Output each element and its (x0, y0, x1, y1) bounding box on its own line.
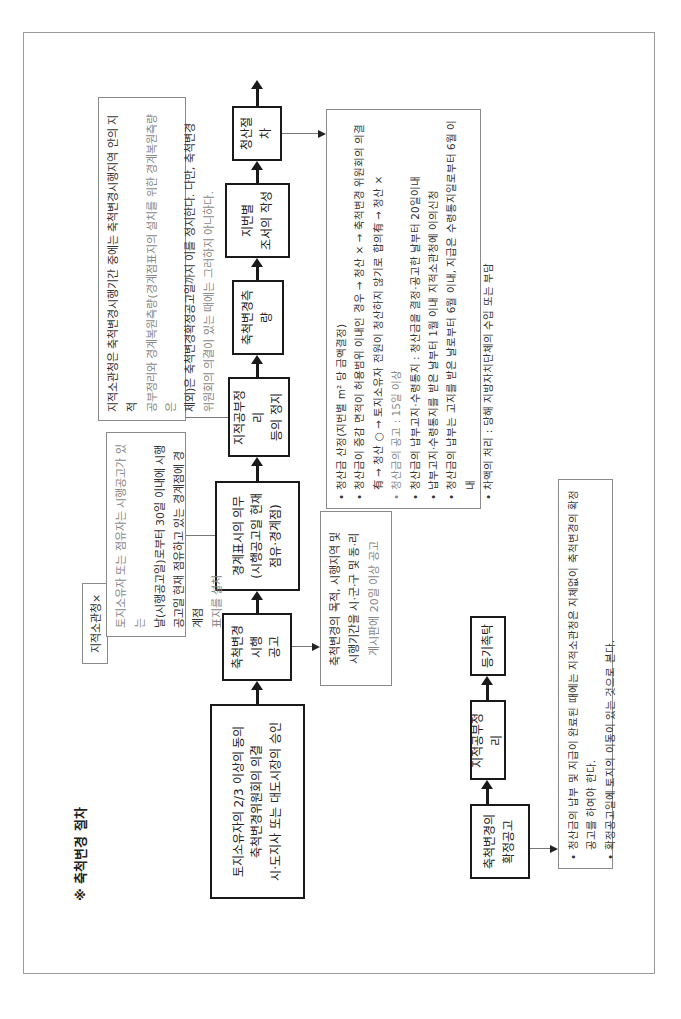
step-boundary-marking: 경계표시의 의무 (시행공고일 현재 점유·경계점) (215, 481, 300, 591)
step-line: 확정공고 (500, 820, 519, 864)
arrow-right (256, 88, 259, 106)
arrow-down (312, 643, 320, 651)
settlement-item: 청산금 산정(지번별 m² 당 금액결정) (332, 118, 350, 500)
settlement-item: 청산금의 공고 : 15일 이상 (387, 118, 405, 500)
step-line: 점유·경계점) (267, 504, 286, 568)
step-line: 경계표시의 의무 (230, 496, 249, 577)
step-line: (시행공고일 현재 (248, 493, 267, 579)
step-line: 지적공부정리 (469, 708, 506, 772)
step-survey: 축척변경측량 (232, 280, 284, 355)
rotated-page: ※ 축척변경 절차 토지소유자의 2/3 이상의 동의 축척변경위원회의 의결 … (0, 0, 681, 1019)
step-line: 청산절차 (238, 114, 275, 153)
arrow-right (486, 684, 489, 700)
note-line: 제외)은 축척변경확정공고일까지 이를 정지한다. 다만, 축척변경 (181, 106, 200, 412)
note-line: 공고일 현재 점유하고 있는 경계점에 경계점 (170, 441, 209, 628)
step-line: 등의 정지 (268, 393, 287, 441)
arrow-right (486, 788, 489, 804)
connector-line (530, 848, 552, 849)
arrow-right (256, 465, 259, 481)
settlement-item: 청산금이 증감 면적이 허용범위 이내인 경우 → 청산 × → 축척변경 위원… (350, 118, 387, 500)
step-final-notice: 축척변경의 확정공고 (470, 804, 530, 879)
step-line: 지번별 (239, 204, 258, 237)
public-notice-note: 축척변경의 목적, 시행지역 및 시행기간을 시·군·구 및 동·리 게시판에 … (320, 511, 392, 686)
connector-line (282, 133, 322, 134)
boundary-tag: 지적소관청× (82, 583, 108, 664)
arrow-right (256, 169, 259, 183)
step-line: 축척변경위원회의 의결 (248, 745, 267, 859)
step-lot-survey-record: 지번별 조서의 작성 (225, 183, 290, 258)
note-line: 위원회의 의결이 있는 때에는 그러하지 아니하다. (200, 106, 219, 412)
step-settlement: 청산절차 (232, 106, 282, 161)
note-line: 날(시행공고일)로부터 30일 이내에 시행 (151, 441, 170, 628)
note-line: 시행기간을 시·군·구 및 동·리 (345, 520, 364, 677)
boundary-note: 토지소유자 또는 점유자는 시행공고가 있는 날(시행공고일)로부터 30일 이… (106, 432, 186, 637)
arrow-right (256, 363, 259, 377)
final-item: 청산금의 납부 및 지급이 완료된 때에는 지적소관청은 지체없이 축척변경의 … (564, 488, 601, 860)
step-line: 축척변경의 (481, 814, 500, 869)
step-line: 공고 (266, 636, 285, 658)
arrow-right (256, 266, 259, 280)
step-line: 지적공부정리 (231, 385, 268, 449)
suspension-note: 지적소관청은 축척변경시행기간 중에는 축척변경시행지역 안의 지적 공부정리와… (98, 97, 186, 421)
settlement-item: 차액의 처리 : 당해 지방자치단체의 수입 또는 부담 (479, 118, 497, 500)
settlement-note: 청산금 산정(지번별 m² 당 금액결정) 청산금이 증감 면적이 허용범위 이… (326, 109, 481, 509)
settlement-item: 청산금의 납부는 고지를 받은 날로부터 6월 이내, 지급은 수령통지일로부터… (442, 118, 479, 500)
arrow-right (256, 599, 259, 613)
step-registration-request: 등기촉탁 (470, 616, 506, 676)
note-line: 표지를 설치 (208, 441, 227, 628)
note-line: 축척변경의 목적, 시행지역 및 (326, 520, 345, 677)
note-line: 토지소유자 또는 점유자는 시행공고가 있는 (112, 441, 151, 628)
note-line: 지적소관청은 축척변경시행기간 중에는 축척변경시행지역 안의 지적 (104, 106, 143, 412)
final-note: 청산금의 납부 및 지급이 완료된 때에는 지적소관청은 지체없이 축척변경의 … (558, 479, 613, 869)
step-line: 시·도지사 또는 대도시장의 승인 (267, 722, 286, 880)
arrow-right (256, 689, 259, 704)
final-item: 확정공고일에 토지의 이동이 있는 것으로 본다. (601, 488, 619, 860)
page-title: ※ 축척변경 절차 (70, 807, 89, 901)
step-public-notice: 축척변경시행 공고 (222, 613, 292, 681)
step-registry-suspension: 지적공부정리 등의 정지 (228, 377, 290, 457)
step-consent-approval: 토지소유자의 2/3 이상의 동의 축척변경위원회의 의결 시·도지사 또는 대… (210, 704, 305, 899)
step-line: 축척변경시행 (229, 621, 266, 673)
step-line: 등기촉탁 (479, 624, 498, 668)
note-line: 공부정리와 경계복원측량(경계점표지의 설치를 위한 경계복원측량은 (143, 106, 182, 412)
settlement-item: 납부고지·수령통지를 받은 날부터 1월 이내 지적소관청에 이의신청 (424, 118, 442, 500)
step-line: 조서의 작성 (258, 191, 277, 250)
arrow-down (550, 845, 558, 853)
note-line: 게시판에 20일 이상 공고 (365, 520, 384, 677)
settlement-item: 청산금의 납부고지·수령통지 : 청산금을 결정·공고한 날부터 20일이내 (406, 118, 424, 500)
step-final-registry: 지적공부정리 (470, 700, 506, 780)
arrow-down (318, 130, 326, 138)
step-line: 토지소유자의 2/3 이상의 동의 (230, 726, 249, 878)
step-line: 축척변경측량 (239, 288, 276, 347)
